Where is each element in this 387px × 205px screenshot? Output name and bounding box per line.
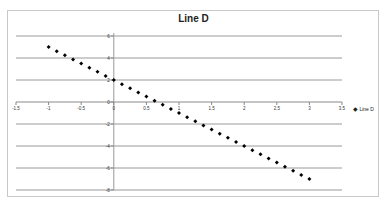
data-point-diamond bbox=[250, 148, 254, 152]
data-point-diamond bbox=[259, 152, 263, 156]
data-point-diamond bbox=[234, 140, 238, 144]
x-tick-label: 0.5 bbox=[143, 106, 150, 111]
data-point-diamond bbox=[63, 53, 67, 57]
x-tick-label: 3 bbox=[308, 106, 311, 111]
data-point-diamond bbox=[193, 119, 197, 123]
x-tick-label: 1.5 bbox=[208, 106, 215, 111]
data-point-diamond bbox=[242, 144, 246, 148]
data-point-diamond bbox=[144, 95, 148, 99]
x-tick-label: -1 bbox=[47, 106, 51, 111]
y-tick-label: -2 bbox=[106, 122, 110, 127]
data-point-diamond bbox=[128, 86, 132, 90]
data-point-diamond bbox=[275, 161, 279, 165]
x-tick-label: 2 bbox=[243, 106, 246, 111]
data-point-diamond bbox=[299, 173, 303, 177]
data-point-diamond bbox=[267, 156, 271, 160]
x-tick-label: 1 bbox=[178, 106, 181, 111]
data-point-diamond bbox=[291, 169, 295, 173]
data-point-diamond bbox=[169, 107, 173, 111]
data-point-diamond bbox=[55, 49, 59, 53]
legend-diamond-icon: ◆ bbox=[353, 106, 358, 112]
data-point-diamond bbox=[307, 177, 311, 181]
data-point-diamond bbox=[226, 136, 230, 140]
y-tick-label: -4 bbox=[106, 144, 110, 149]
data-point-diamond bbox=[210, 128, 214, 132]
data-point-diamond bbox=[96, 70, 100, 74]
data-point-diamond bbox=[47, 45, 51, 49]
data-point-diamond bbox=[79, 62, 83, 66]
x-tick-label: 2.5 bbox=[274, 106, 281, 111]
data-point-diamond bbox=[185, 115, 189, 119]
x-tick-label: 0 bbox=[113, 106, 116, 111]
y-tick-label: -6 bbox=[106, 166, 110, 171]
x-tick-label: 3.5 bbox=[339, 106, 346, 111]
x-tick-label: -1.5 bbox=[12, 106, 20, 111]
data-point-diamond bbox=[120, 82, 124, 86]
legend-label: Line D bbox=[359, 106, 373, 112]
data-point-diamond bbox=[136, 90, 140, 94]
data-point-diamond bbox=[177, 111, 181, 115]
legend: ◆ Line D bbox=[353, 105, 374, 112]
data-point-diamond bbox=[161, 103, 165, 107]
plot-area: 6420-2-4-6-8-1.5-1-0.500.511.522.533.5 bbox=[0, 0, 387, 205]
data-point-diamond bbox=[218, 132, 222, 136]
y-tick-label: -8 bbox=[106, 188, 110, 193]
data-point-diamond bbox=[112, 78, 116, 82]
x-tick-label: -0.5 bbox=[77, 106, 85, 111]
data-point-diamond bbox=[87, 66, 91, 70]
